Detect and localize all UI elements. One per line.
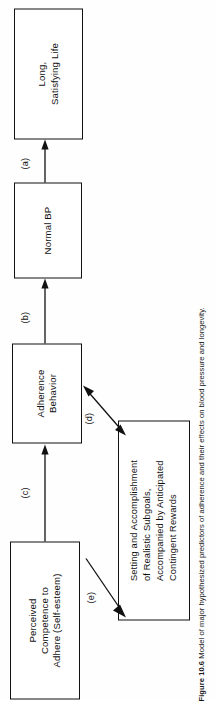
figure-number: Figure 10.6 bbox=[197, 660, 206, 701]
edge-e-arrow bbox=[82, 556, 128, 618]
edge-a-label: (a) bbox=[20, 157, 30, 169]
node-adherence-behavior: Adherence Behavior bbox=[12, 343, 82, 443]
edge-b-arrow bbox=[40, 275, 50, 343]
node-label: Setting and Accomplishment of Realistic … bbox=[128, 452, 181, 587]
node-label: Perceived Competence to Adhere (Self-est… bbox=[27, 569, 64, 671]
node-perceived-competence: Perceived Competence to Adhere (Self-est… bbox=[10, 541, 80, 699]
edge-c-arrow bbox=[40, 441, 50, 541]
edge-c-label: (c) bbox=[20, 487, 30, 498]
edge-d-label: (d) bbox=[84, 412, 94, 424]
edge-d-double-arrow bbox=[82, 384, 126, 436]
node-normal-bp: Normal BP bbox=[14, 182, 82, 278]
edge-a-arrow bbox=[40, 136, 50, 182]
edge-b-label: (b) bbox=[20, 311, 30, 323]
node-label: Adherence Behavior bbox=[35, 365, 60, 421]
node-setting-subgoals: Setting and Accomplishment of Realistic … bbox=[118, 420, 190, 620]
figure-caption-text: Model of major hypothesized predictors o… bbox=[197, 307, 206, 658]
rotated-figure-canvas: Long, Satisfying Life Normal BP Adherenc… bbox=[0, 0, 216, 701]
flowchart-diagram: Long, Satisfying Life Normal BP Adherenc… bbox=[0, 0, 216, 701]
node-label: Long, Satisfying Life bbox=[36, 39, 61, 109]
figure-caption: Figure 10.6 Model of major hypothesized … bbox=[197, 0, 206, 701]
node-long-satisfying-life: Long, Satisfying Life bbox=[14, 8, 83, 139]
node-label: Normal BP bbox=[42, 202, 54, 258]
edge-e-label: (e) bbox=[86, 591, 96, 603]
